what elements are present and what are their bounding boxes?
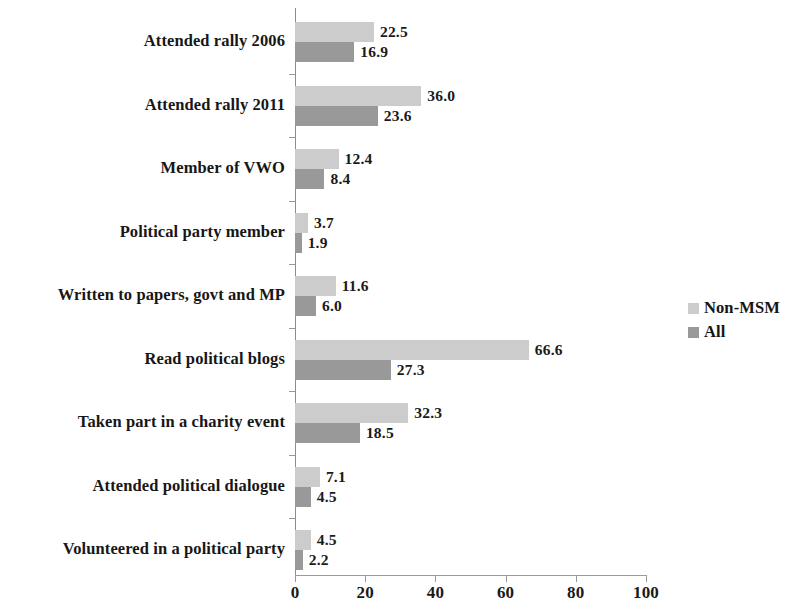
bar-value-label: 36.0 xyxy=(427,87,455,105)
y-axis-tick xyxy=(289,518,295,519)
y-axis-tick xyxy=(289,391,295,392)
legend-item: Non-MSM xyxy=(688,296,780,320)
x-axis-tick xyxy=(295,575,296,582)
x-axis-tick-label: 100 xyxy=(633,583,659,603)
y-axis-tick xyxy=(289,201,295,202)
x-axis-tick-label: 80 xyxy=(567,583,584,603)
legend-swatch-icon xyxy=(688,303,699,314)
y-axis-tick xyxy=(289,264,295,265)
bar-value-label: 11.6 xyxy=(342,277,369,295)
bar-all xyxy=(295,296,316,316)
bar-non-msm xyxy=(295,22,374,42)
chart-legend: Non-MSMAll xyxy=(688,296,780,344)
x-axis-tick xyxy=(435,575,436,582)
legend-label: Non-MSM xyxy=(704,298,780,318)
bar-value-label: 66.6 xyxy=(535,341,563,359)
bar-value-label: 2.2 xyxy=(309,551,329,569)
bar-value-label: 12.4 xyxy=(345,150,373,168)
x-axis-tick-label: 20 xyxy=(356,583,373,603)
x-axis-tick xyxy=(365,575,366,582)
bar-all xyxy=(295,487,311,507)
x-axis-line xyxy=(295,575,646,576)
x-axis-tick-label: 60 xyxy=(497,583,514,603)
bar-non-msm xyxy=(295,149,339,169)
bar-all xyxy=(295,42,354,62)
bar-all xyxy=(295,169,324,189)
bar-all xyxy=(295,550,303,570)
bar-non-msm xyxy=(295,213,308,233)
x-axis-tick-label: 0 xyxy=(291,583,300,603)
category-label: Read political blogs xyxy=(145,349,285,369)
bar-value-label: 8.4 xyxy=(330,170,350,188)
x-axis-tick xyxy=(646,575,647,582)
y-axis-tick xyxy=(289,328,295,329)
legend-label: All xyxy=(704,322,725,342)
category-label: Volunteered in a political party xyxy=(63,539,285,559)
bar-value-label: 27.3 xyxy=(397,361,425,379)
bar-value-label: 22.5 xyxy=(380,23,408,41)
category-label: Attended rally 2006 xyxy=(144,31,285,51)
plot-area: 22.516.936.023.612.48.43.71.911.66.066.6… xyxy=(295,8,646,575)
legend-item: All xyxy=(688,320,780,344)
category-label: Written to papers, govt and MP xyxy=(58,285,285,305)
y-axis-tick xyxy=(289,455,295,456)
bar-value-label: 6.0 xyxy=(322,297,342,315)
x-axis-tick-label: 40 xyxy=(427,583,444,603)
bar-non-msm xyxy=(295,530,311,550)
bar-value-label: 4.5 xyxy=(317,531,337,549)
bar-value-label: 16.9 xyxy=(360,43,388,61)
bar-all xyxy=(295,360,391,380)
category-label: Member of VWO xyxy=(161,158,285,178)
y-axis-tick xyxy=(289,137,295,138)
x-axis-tick xyxy=(506,575,507,582)
bar-value-label: 4.5 xyxy=(317,488,337,506)
bar-non-msm xyxy=(295,340,529,360)
bar-value-label: 18.5 xyxy=(366,424,394,442)
category-label: Political party member xyxy=(120,222,285,242)
legend-swatch-icon xyxy=(688,327,699,338)
bar-value-label: 23.6 xyxy=(384,107,412,125)
bar-all xyxy=(295,423,360,443)
bar-non-msm xyxy=(295,467,320,487)
bar-non-msm xyxy=(295,403,408,423)
bar-all xyxy=(295,106,378,126)
category-label: Attended rally 2011 xyxy=(145,95,285,115)
bar-value-label: 3.7 xyxy=(314,214,334,232)
category-label: Taken part in a charity event xyxy=(78,412,285,432)
bar-value-label: 1.9 xyxy=(308,234,328,252)
x-axis-tick xyxy=(576,575,577,582)
category-label: Attended political dialogue xyxy=(93,476,285,496)
bar-value-label: 7.1 xyxy=(326,468,346,486)
bar-all xyxy=(295,233,302,253)
y-axis-tick xyxy=(289,74,295,75)
horizontal-bar-chart: 22.516.936.023.612.48.43.71.911.66.066.6… xyxy=(0,0,796,605)
bar-non-msm xyxy=(295,276,336,296)
bar-value-label: 32.3 xyxy=(414,404,442,422)
bar-non-msm xyxy=(295,86,421,106)
